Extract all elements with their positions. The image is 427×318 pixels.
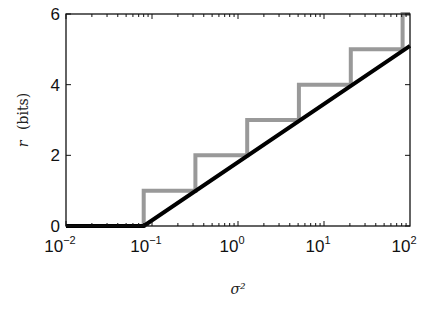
- y-tick-labels: 0246: [51, 5, 60, 236]
- y-tick-label: 0: [51, 217, 60, 236]
- continuous-rate-line: [66, 46, 410, 226]
- axis-ticks: [66, 14, 410, 226]
- y-tick-label: 6: [51, 5, 60, 24]
- x-tick-label: 10−2: [44, 234, 75, 256]
- x-tick-label: 10−1: [130, 234, 161, 256]
- staircase-rate-line: [66, 14, 410, 226]
- x-tick-label: 102: [391, 234, 416, 256]
- y-axis-label: r (bits): [15, 93, 31, 147]
- x-axis-label: σ²: [230, 281, 246, 297]
- axes-frame: [66, 14, 410, 226]
- x-tick-labels: 10−210−1100101102: [44, 234, 416, 256]
- chart: 10−210−1100101102 0246 σ² r (bits): [0, 0, 427, 318]
- svg-text:r (bits): r (bits): [15, 93, 31, 147]
- y-tick-label: 2: [51, 146, 60, 165]
- x-tick-label: 100: [219, 234, 244, 256]
- x-tick-label: 101: [305, 234, 330, 256]
- y-tick-label: 4: [51, 76, 60, 95]
- plot-area: [66, 14, 410, 226]
